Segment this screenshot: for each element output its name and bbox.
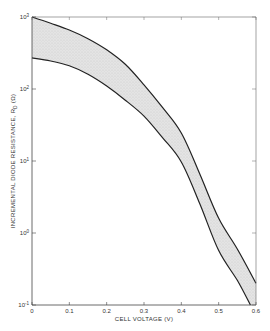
x-tick-label: 0.5: [214, 308, 223, 314]
x-tick-label: 0.3: [140, 308, 149, 314]
y-axis-title-main: INCREMENTAL DIODE RESISTANCE, R: [10, 108, 16, 228]
x-tick-label: 0: [30, 308, 34, 314]
x-axis-title: CELL VOLTAGE (V): [115, 316, 173, 322]
y-tick-label: 103: [20, 13, 30, 21]
x-tick-label: 0.4: [177, 308, 186, 314]
x-tick-label: 0.6: [252, 308, 261, 314]
y-tick-label: 10-1: [18, 301, 29, 309]
y-tick-label: 100: [20, 229, 30, 237]
x-tick-label: 0.2: [102, 308, 111, 314]
y-axis-title: INCREMENTAL DIODE RESISTANCE, RD (Ω): [10, 94, 18, 228]
chart: 00.10.20.30.40.50.6 10310210110010-1 CEL…: [0, 0, 270, 331]
y-axis-title-unit: (Ω): [10, 94, 16, 105]
shaded-band: [32, 17, 256, 305]
y-tick-label: 101: [20, 157, 30, 165]
y-tick-label: 102: [20, 85, 30, 93]
x-tick-label: 0.1: [65, 308, 74, 314]
